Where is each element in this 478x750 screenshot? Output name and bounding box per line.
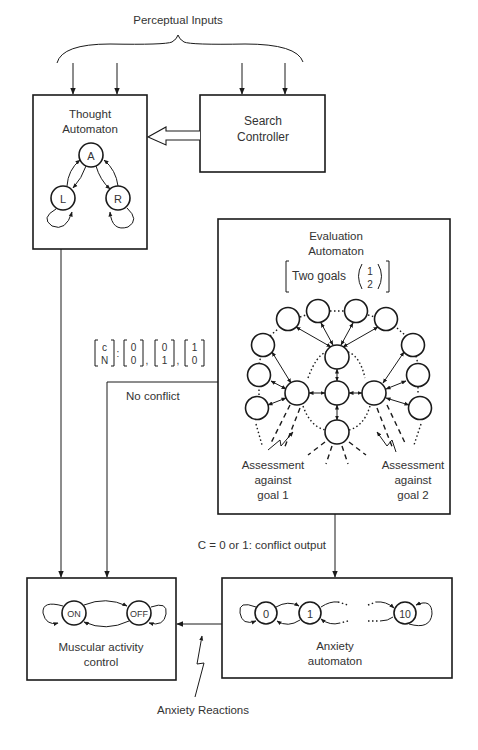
svg-text:Controller: Controller (237, 130, 289, 144)
anxiety-reactions-lightning-icon (195, 636, 204, 697)
eval-node (375, 308, 398, 331)
search-controller-label: Search (244, 114, 282, 128)
thought-automaton-title: Thought (69, 108, 112, 120)
svg-text:against: against (254, 474, 292, 486)
evaluation-automaton-title: Evaluation (309, 230, 363, 242)
svg-text:N: N (101, 355, 108, 366)
svg-text:0: 0 (192, 355, 198, 366)
svg-text:automaton: automaton (308, 655, 362, 667)
eval-node-center-top (325, 345, 349, 369)
svg-text:Automaton: Automaton (308, 245, 364, 257)
eval-node (407, 364, 430, 387)
svg-text:goal 1: goal 1 (257, 489, 288, 501)
svg-text:1: 1 (307, 608, 313, 620)
svg-text:control: control (84, 656, 119, 668)
eval-node-center (325, 381, 349, 405)
perceptual-inputs-label: Perceptual Inputs (133, 14, 223, 26)
eval-node (252, 334, 275, 357)
no-conflict-label: No conflict (126, 390, 180, 402)
evaluation-automaton-box: Evaluation Automaton Two goals 1 2 (218, 219, 450, 514)
svg-text::: : (117, 348, 120, 359)
conflict-output-label: C = 0 or 1: conflict output (198, 539, 327, 551)
eval-node-right (362, 381, 386, 405)
assessment-goal-2-label: Assessment (382, 459, 445, 471)
svg-text:0: 0 (131, 355, 137, 366)
svg-text:Automaton: Automaton (62, 123, 118, 135)
thought-automaton-box: Thought Automaton A L R (33, 95, 147, 249)
eval-node-bottom (325, 420, 349, 444)
muscular-activity-control-box: ON OFF Muscular activity control (27, 578, 176, 680)
svg-text:0: 0 (162, 342, 168, 353)
search-controller-box: Search Controller (200, 95, 325, 172)
svg-text:1: 1 (192, 342, 198, 353)
eval-node (277, 308, 300, 331)
eval-node (345, 300, 368, 323)
svg-text:against: against (394, 474, 432, 486)
eval-node (246, 397, 269, 420)
svg-text:0: 0 (131, 342, 137, 353)
eval-node-left (285, 381, 309, 405)
muscular-activity-label: Muscular activity (59, 641, 144, 653)
perceptual-inputs-brace (57, 35, 303, 63)
svg-text:2: 2 (367, 279, 373, 290)
eval-node (409, 397, 432, 420)
svg-text:OFF: OFF (130, 609, 148, 619)
hollow-control-arrow (148, 127, 200, 145)
eval-node (402, 334, 425, 357)
two-goals-label: Two goals (292, 269, 346, 283)
svg-text:L: L (60, 193, 66, 205)
anxiety-reactions-label: Anxiety Reactions (157, 704, 249, 716)
svg-text:A: A (87, 150, 95, 162)
anxiety-model-diagram: Perceptual Inputs Thought Automaton A L … (0, 0, 478, 750)
svg-text:0: 0 (263, 608, 269, 620)
svg-text:1: 1 (162, 355, 168, 366)
eval-node (307, 300, 330, 323)
svg-text:,: , (146, 355, 149, 366)
svg-text:ON: ON (67, 609, 81, 619)
svg-text:10: 10 (399, 608, 411, 620)
anxiety-automaton-box: 0 1 10 Anxiety automaton (222, 578, 452, 678)
assessment-goal-1-label: Assessment (242, 459, 305, 471)
eval-node (248, 364, 271, 387)
anxiety-automaton-label: Anxiety (316, 640, 354, 652)
signal-vector-notation: c N : 0 0 , 0 1 , 1 0 (95, 340, 204, 366)
svg-text:,: , (177, 355, 180, 366)
svg-text:c: c (102, 342, 107, 353)
svg-text:goal 2: goal 2 (397, 489, 428, 501)
svg-text:R: R (114, 193, 122, 205)
svg-text:1: 1 (367, 266, 373, 277)
